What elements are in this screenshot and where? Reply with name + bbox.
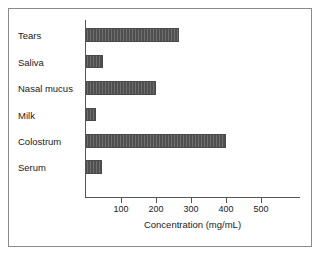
category-label-serum: Serum: [18, 162, 46, 173]
x-tick-500: [261, 198, 262, 203]
x-tick-label-300: 300: [183, 204, 198, 214]
x-tick-label-500: 500: [253, 204, 268, 214]
plot-area: Tears Saliva Nasal mucus Milk Colostrum …: [0, 0, 321, 256]
category-label-colostrum: Colostrum: [18, 136, 61, 147]
category-label-saliva: Saliva: [18, 57, 44, 68]
x-tick-label-100: 100: [113, 204, 128, 214]
category-label-tears: Tears: [18, 30, 41, 41]
x-tick-300: [191, 198, 192, 203]
bar-colostrum: [86, 134, 226, 148]
x-tick-200: [156, 198, 157, 203]
x-tick-400: [226, 198, 227, 203]
x-tick-label-200: 200: [148, 204, 163, 214]
chart-figure: Tears Saliva Nasal mucus Milk Colostrum …: [0, 0, 321, 256]
category-label-nasal-mucus: Nasal mucus: [18, 83, 73, 94]
bar-nasal-mucus: [86, 81, 156, 95]
x-tick-100: [121, 198, 122, 203]
bar-milk: [86, 108, 96, 121]
bar-serum: [86, 160, 102, 174]
x-axis-line: [85, 197, 300, 198]
category-label-milk: Milk: [18, 110, 35, 121]
bar-saliva: [86, 55, 103, 68]
bar-tears: [86, 28, 179, 42]
x-axis-title: Concentration (mg/mL): [85, 219, 300, 230]
x-tick-label-400: 400: [218, 204, 233, 214]
